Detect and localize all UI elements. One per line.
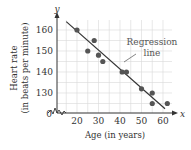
x-axis-label: Age (in years)	[84, 130, 145, 140]
y-tick-label: 150	[36, 46, 53, 56]
axes	[48, 12, 178, 116]
data-point	[100, 59, 105, 64]
data-point	[96, 53, 101, 58]
x-tick-label: 30	[93, 116, 105, 126]
scatter-chart: 2030405060130140150160 0 x y Age (in yea…	[0, 0, 191, 150]
data-point	[139, 86, 144, 91]
origin-label: 0	[46, 109, 52, 119]
annotation-line-1: Regression	[127, 37, 178, 47]
x-tick-label: 40	[114, 116, 126, 126]
y-axis-label-line-1: Heart rate	[9, 45, 19, 90]
regression-annotation: Regression line	[124, 37, 178, 62]
x-axis-letter: x	[180, 109, 185, 119]
y-tick-label: 140	[36, 67, 53, 77]
y-tick-label: 160	[36, 25, 53, 35]
data-point	[165, 101, 170, 106]
y-axis-label-line-2: (in beats per minute)	[20, 23, 30, 114]
x-tick-label: 20	[71, 116, 83, 126]
y-axis-letter: y	[53, 4, 60, 14]
annotation-line-2: line	[144, 48, 161, 58]
x-tick-label: 60	[157, 116, 169, 126]
x-axis-arrow-icon	[172, 111, 178, 116]
regression-line	[66, 22, 165, 109]
data-point	[150, 90, 155, 95]
annotation-pointer	[124, 54, 136, 62]
data-point	[85, 48, 90, 53]
data-point	[150, 101, 155, 106]
x-tick-label: 50	[136, 116, 148, 126]
data-point	[92, 38, 97, 43]
y-axis-label: Heart rate (in beats per minute)	[9, 23, 30, 114]
data-point	[124, 69, 129, 74]
y-tick-label: 130	[36, 88, 53, 98]
data-point	[74, 27, 79, 32]
regression-line-path	[66, 22, 165, 109]
